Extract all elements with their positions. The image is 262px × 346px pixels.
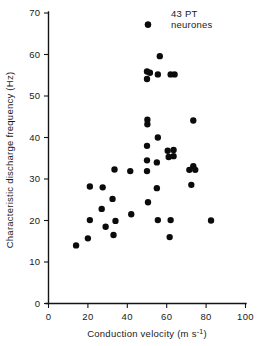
y-tick-label: 30 — [29, 173, 40, 184]
data-point — [144, 157, 150, 163]
x-tick-label: 60 — [161, 311, 172, 322]
data-point — [100, 184, 106, 190]
y-tick-label: 60 — [29, 49, 40, 60]
y-tick-label: 50 — [29, 90, 40, 101]
data-point — [144, 168, 150, 174]
y-axis-ticks: 010203040506070 — [29, 7, 48, 309]
data-point — [208, 217, 214, 223]
data-point — [110, 232, 116, 238]
data-point — [165, 148, 171, 154]
annotation-sample-marker — [145, 21, 151, 27]
data-point — [144, 143, 150, 149]
data-point — [87, 217, 93, 223]
data-point — [155, 134, 161, 140]
x-tick-label: 20 — [82, 311, 93, 322]
y-tick-label: 70 — [29, 7, 40, 18]
data-point — [145, 199, 151, 205]
x-tick-label: 80 — [200, 311, 211, 322]
data-point — [171, 71, 177, 77]
data-point — [147, 70, 153, 76]
data-point — [154, 159, 160, 165]
data-point — [155, 217, 161, 223]
x-tick-label: 0 — [46, 311, 52, 322]
annotation-line-1: 43 PT — [171, 8, 198, 19]
data-point — [127, 168, 133, 174]
data-points-group — [73, 21, 214, 248]
data-point — [188, 182, 194, 188]
x-axis-ticks: 020406080100 — [46, 304, 254, 322]
data-point — [167, 217, 173, 223]
data-point — [166, 234, 172, 240]
x-axis-title-main: Conduction velocity (m s — [87, 328, 196, 339]
data-point — [192, 167, 198, 173]
x-tick-label: 100 — [237, 311, 254, 322]
data-point — [154, 185, 160, 191]
data-point — [73, 242, 79, 248]
y-axis-title: Characteristic discharge frequency (Hz) — [4, 72, 15, 249]
y-tick-label: 0 — [35, 298, 41, 309]
data-point — [112, 218, 118, 224]
data-point — [85, 235, 91, 241]
y-tick-label: 20 — [29, 215, 40, 226]
data-point — [128, 211, 134, 217]
data-point — [111, 166, 117, 172]
data-point — [109, 196, 115, 202]
data-point — [170, 147, 176, 153]
y-tick-label: 10 — [29, 256, 40, 267]
data-point — [99, 206, 105, 212]
data-point — [144, 121, 150, 127]
data-point — [157, 53, 163, 59]
data-point — [190, 117, 196, 123]
data-point — [155, 71, 161, 77]
data-point — [87, 183, 93, 189]
y-tick-label: 40 — [29, 132, 40, 143]
data-point — [144, 76, 150, 82]
data-point — [102, 224, 108, 230]
data-point — [170, 153, 176, 159]
scatter-plot-figure: 010203040506070 020406080100 43 PT neuro… — [0, 0, 262, 346]
x-axis-title: Conduction velocity (m s-1) — [87, 328, 207, 339]
x-tick-label: 40 — [122, 311, 133, 322]
annotation-line-2: neurones — [171, 19, 213, 30]
plot-canvas: 010203040506070 020406080100 43 PT neuro… — [0, 0, 262, 346]
